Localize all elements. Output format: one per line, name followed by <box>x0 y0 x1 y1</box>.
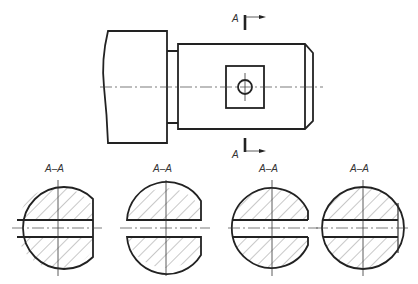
section-label-bottom: A <box>231 149 239 160</box>
section-view-1: A–A <box>10 163 102 277</box>
section-1-slot <box>17 220 93 237</box>
section-view-3: A–A <box>228 163 318 277</box>
section-title-2: A–A <box>152 163 172 174</box>
main-view: A A <box>100 13 323 160</box>
section-title-3: A–A <box>258 163 278 174</box>
section-4-slot <box>323 220 398 237</box>
section-view-4: A–A <box>316 163 410 277</box>
shaft-outline <box>178 44 313 129</box>
section-label-top: A <box>231 13 239 24</box>
section-mark-bottom: A <box>231 138 266 160</box>
section-title-4: A–A <box>349 163 369 174</box>
section-3-slot <box>233 220 308 237</box>
section-mark-top: A <box>231 13 266 30</box>
section-view-2: A–A <box>120 163 210 277</box>
section-title-1: A–A <box>44 163 64 174</box>
technical-drawing: A A A–A A–A A–A <box>0 0 418 284</box>
